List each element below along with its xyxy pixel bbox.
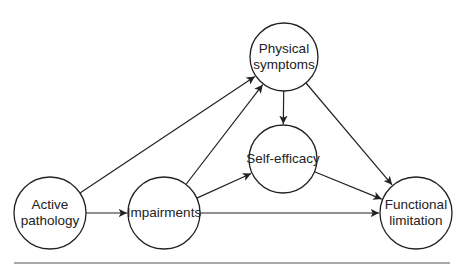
edge-impairments-to-self-efficacy (197, 174, 251, 199)
edge-active-pathology-to-physical-symptoms (80, 76, 255, 193)
node-label: Impairments (127, 205, 202, 220)
node-label: Active (32, 197, 69, 212)
path-diagram: ActivepathologyImpairmentsPhysicalsympto… (0, 0, 467, 269)
node-physical-symptoms: Physicalsymptoms (250, 23, 318, 91)
edge-self-efficacy-to-functional-limitation (315, 172, 382, 199)
node-functional-limitation: Functionallimitation (380, 177, 452, 249)
node-label: Self-efficacy (246, 151, 320, 166)
node-label: Physical (259, 41, 309, 56)
node-label: symptoms (253, 57, 315, 72)
node-active-pathology: Activepathology (14, 177, 86, 249)
node-self-efficacy: Self-efficacy (246, 125, 320, 193)
node-label: limitation (389, 213, 442, 228)
nodes-layer: ActivepathologyImpairmentsPhysicalsympto… (14, 23, 452, 249)
edges-layer (80, 76, 392, 213)
node-impairments: Impairments (127, 177, 202, 249)
node-label: pathology (21, 213, 80, 228)
node-label: Functional (385, 197, 447, 212)
edge-physical-symptoms-to-functional-limitation (306, 83, 392, 185)
